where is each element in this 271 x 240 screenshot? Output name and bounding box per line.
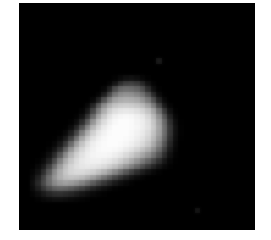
margin-bottom bbox=[0, 230, 271, 240]
margin-left bbox=[0, 0, 19, 240]
astronomical-image-frame bbox=[19, 3, 255, 230]
margin-top bbox=[0, 0, 271, 3]
image-viewer bbox=[0, 0, 271, 240]
moon-pixel-heatmap bbox=[19, 3, 255, 230]
margin-right bbox=[255, 0, 271, 240]
